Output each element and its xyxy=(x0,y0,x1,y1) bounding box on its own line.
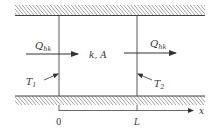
top-wall xyxy=(15,5,205,16)
top-wall-hatch xyxy=(15,5,205,15)
x-axis-label: x xyxy=(199,106,204,116)
bottom-wall-hatch xyxy=(15,96,205,105)
temp-left-pointer-icon xyxy=(44,74,58,80)
temp-right-pointer-icon xyxy=(138,74,152,80)
temp-right-label: T2 xyxy=(154,78,164,91)
heat-conduction-diagram: Qhk k, A Qhk T1 T2 x 0 L xyxy=(0,0,217,132)
temp-left-label: T1 xyxy=(26,76,36,89)
x-axis: x 0 L xyxy=(56,105,204,127)
heat-in-label: Qhk xyxy=(35,40,51,53)
properties-label: k, A xyxy=(89,50,107,60)
tick-length-label: L xyxy=(133,117,140,127)
heat-out-label: Qhk xyxy=(150,38,166,51)
bottom-wall xyxy=(15,96,205,105)
tick-origin-label: 0 xyxy=(56,117,61,127)
